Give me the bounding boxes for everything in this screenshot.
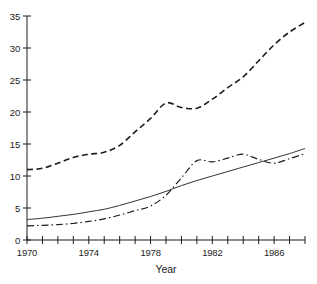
y-tick-label: 20 xyxy=(10,107,20,118)
x-axis-title: Year xyxy=(27,263,305,275)
time-series-line-chart: 0510152025303519701974197819821986 Year xyxy=(0,0,317,284)
y-tick-label: 0 xyxy=(15,235,20,246)
x-tick-label: 1978 xyxy=(140,247,160,258)
x-tick-label: 1986 xyxy=(264,247,284,258)
dashed-series-line xyxy=(27,22,305,169)
x-tick-label: 1974 xyxy=(79,247,99,258)
y-tick-label: 10 xyxy=(10,171,20,182)
x-tick-label: 1982 xyxy=(202,247,222,258)
chart-svg: 0510152025303519701974197819821986 xyxy=(0,0,317,284)
y-tick-label: 35 xyxy=(10,11,20,22)
y-tick-label: 30 xyxy=(10,43,20,54)
y-tick-label: 15 xyxy=(10,139,20,150)
y-tick-label: 5 xyxy=(15,203,20,214)
y-tick-label: 25 xyxy=(10,75,20,86)
x-tick-label: 1970 xyxy=(17,247,37,258)
